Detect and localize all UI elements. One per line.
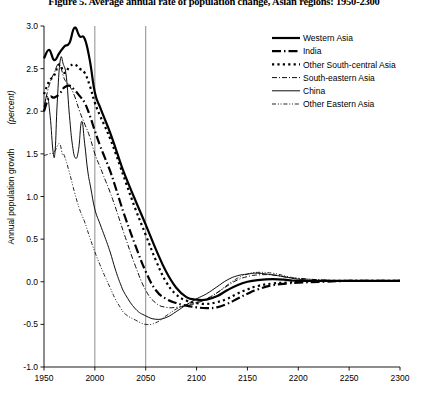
chart-plot: -1.0-0.50.00.51.01.52.02.53.019502000205… bbox=[0, 0, 428, 406]
legend-label: China bbox=[303, 86, 325, 96]
x-tick-label: 1950 bbox=[35, 373, 54, 383]
x-tick-label: 2200 bbox=[289, 373, 308, 383]
x-tick-label: 2250 bbox=[340, 373, 359, 383]
x-tick-label: 2050 bbox=[136, 373, 155, 383]
y-tick-label: 0.0 bbox=[26, 277, 38, 287]
y-tick-label: 3.0 bbox=[26, 21, 38, 31]
legend-label: Western Asia bbox=[303, 33, 353, 43]
x-tick-label: 2000 bbox=[85, 373, 104, 383]
y-axis-title: Annual population growth bbox=[6, 148, 16, 244]
chart-legend: Western AsiaIndiaOther South-central Asi… bbox=[272, 33, 396, 109]
legend-label: Other Eastern Asia bbox=[303, 99, 375, 109]
series-line bbox=[44, 144, 400, 325]
y-tick-label: -1.0 bbox=[23, 362, 38, 372]
legend-label: South-eastern Asia bbox=[303, 73, 375, 83]
x-tick-label: 2150 bbox=[238, 373, 257, 383]
legend-label: Other South-central Asia bbox=[303, 60, 396, 70]
legend-label: India bbox=[303, 46, 322, 56]
y-tick-label: 2.5 bbox=[26, 64, 38, 74]
x-tick-label: 2300 bbox=[391, 373, 410, 383]
y-tick-label: -0.5 bbox=[23, 319, 38, 329]
figure-container: Figure 5. Average annual rate of populat… bbox=[0, 0, 428, 406]
y-tick-label: 2.0 bbox=[26, 106, 38, 116]
y-tick-label: 1.0 bbox=[26, 192, 38, 202]
y-tick-label: 0.5 bbox=[26, 234, 38, 244]
y-axis-title-unit: (percent) bbox=[6, 90, 16, 124]
x-tick-label: 2100 bbox=[187, 373, 206, 383]
y-tick-label: 1.5 bbox=[26, 149, 38, 159]
series-line bbox=[44, 85, 400, 308]
